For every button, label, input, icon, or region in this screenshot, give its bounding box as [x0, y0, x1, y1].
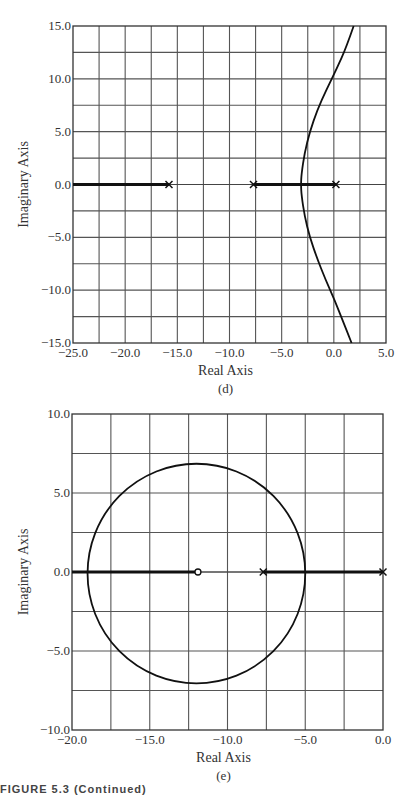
x-tick-label: −10.0 — [214, 345, 244, 360]
y-tick-label: 0.0 — [55, 177, 71, 192]
y-tick-labels: 10.05.00.0−5.0−10.0 — [40, 406, 70, 737]
x-tick-label: 0.0 — [375, 732, 391, 747]
x-tick-labels: −20.0−15.0−10.0−5.00.0 — [57, 732, 391, 747]
y-tick-label: −5.0 — [46, 643, 70, 658]
y-tick-label: −5.0 — [47, 229, 71, 244]
chart-d: −25.0−20.0−15.0−10.0−5.00.05.015.010.05.… — [16, 18, 394, 396]
x-axis-label: Real Axis — [198, 363, 253, 378]
x-tick-label: 5.0 — [378, 345, 394, 360]
chart-caption: (d) — [218, 381, 233, 396]
y-tick-label: 10.0 — [48, 71, 71, 86]
y-tick-label: 10.0 — [47, 406, 70, 421]
x-tick-labels: −25.0−20.0−15.0−10.0−5.00.05.0 — [58, 345, 394, 360]
y-tick-label: 5.0 — [54, 485, 70, 500]
y-tick-label: −10.0 — [40, 722, 70, 737]
x-tick-label: −5.0 — [270, 345, 294, 360]
y-tick-labels: 15.010.05.00.0−5.0−10.0−15.0 — [41, 18, 71, 350]
y-axis-label: Imaginary Axis — [16, 529, 31, 616]
chart-caption: (e) — [216, 768, 230, 783]
x-tick-label: −15.0 — [162, 345, 192, 360]
y-axis-label: Imaginary Axis — [16, 141, 31, 228]
y-tick-label: −15.0 — [41, 335, 71, 350]
chart-e: −20.0−15.0−10.0−5.00.010.05.00.0−5.0−10.… — [16, 406, 391, 783]
y-tick-label: −10.0 — [41, 282, 71, 297]
x-tick-label: −15.0 — [135, 732, 165, 747]
y-tick-label: 5.0 — [55, 124, 71, 139]
y-tick-label: 15.0 — [48, 18, 71, 33]
y-tick-label: 0.0 — [54, 564, 70, 579]
x-tick-label: −10.0 — [212, 732, 242, 747]
x-tick-label: −20.0 — [110, 345, 140, 360]
x-tick-label: −5.0 — [293, 732, 317, 747]
root-locus-figure: −25.0−20.0−15.0−10.0−5.00.05.015.010.05.… — [0, 0, 408, 795]
zero-o-icon — [195, 569, 201, 575]
figure-caption: FIGURE 5.3 (Continued) — [0, 783, 147, 795]
x-axis-label: Real Axis — [196, 750, 251, 765]
x-tick-label: 0.0 — [326, 345, 342, 360]
